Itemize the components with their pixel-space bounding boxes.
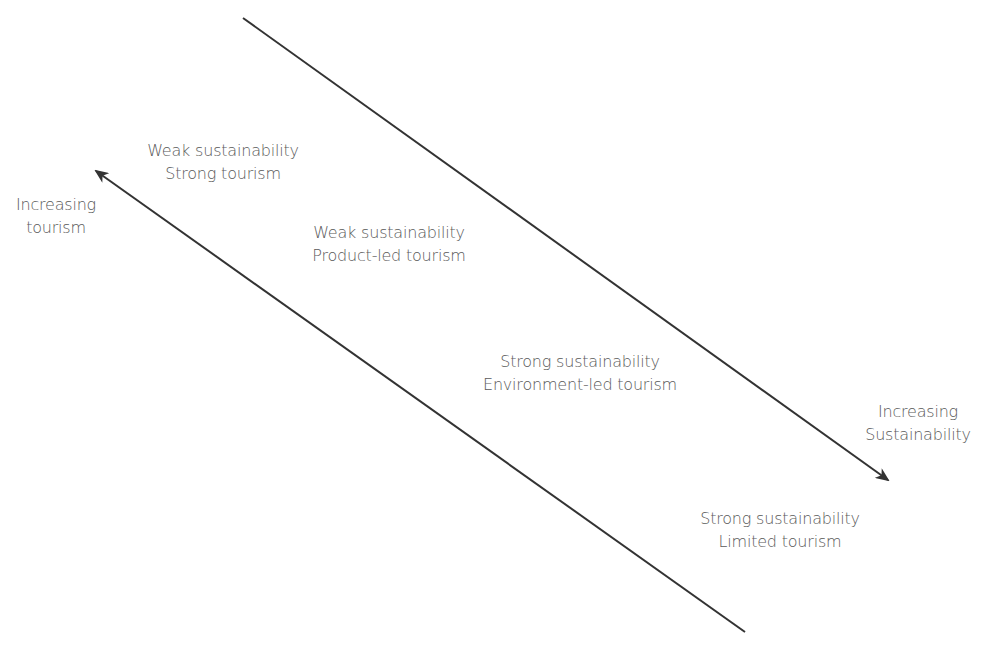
zone-label-line-2: Product-led tourism <box>298 244 480 267</box>
zone-label-line-2: Environment-led tourism <box>470 373 690 396</box>
zone-label-line-1: Weak sustainability <box>298 221 480 244</box>
zone-label-line-1: Weak sustainability <box>134 139 312 162</box>
zone-label-line-2: Limited tourism <box>688 530 872 553</box>
zone-label-weak-strong-tourism: Weak sustainability Strong tourism <box>134 139 312 185</box>
diagram-canvas <box>0 0 987 651</box>
zone-label-strong-limited: Strong sustainability Limited tourism <box>688 507 872 553</box>
zone-label-weak-product-led: Weak sustainability Product-led tourism <box>298 221 480 267</box>
axis-label-tourism-line-1: Increasing <box>10 193 102 216</box>
zone-label-strong-environment-led: Strong sustainability Environment-led to… <box>470 350 690 396</box>
axis-label-sustainability: Increasing Sustainability <box>856 400 980 446</box>
axis-label-tourism-line-2: tourism <box>10 216 102 239</box>
axis-label-tourism: Increasing tourism <box>10 193 102 239</box>
axis-label-sustainability-line-1: Increasing <box>856 400 980 423</box>
zone-label-line-2: Strong tourism <box>134 162 312 185</box>
zone-label-line-1: Strong sustainability <box>470 350 690 373</box>
axis-label-sustainability-line-2: Sustainability <box>856 423 980 446</box>
zone-label-line-1: Strong sustainability <box>688 507 872 530</box>
